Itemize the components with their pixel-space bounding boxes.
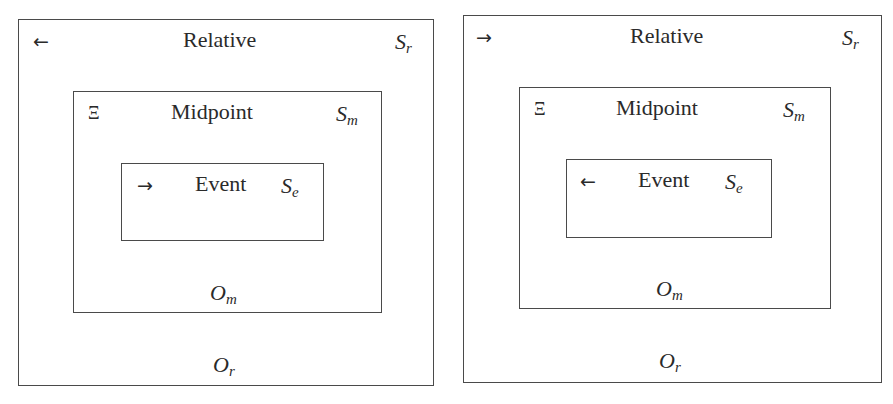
event-s-label: Se: [725, 171, 743, 196]
xi-symbol: Ξ: [88, 104, 100, 122]
xi-symbol: Ξ: [534, 100, 546, 118]
arrow-right-icon: →: [137, 176, 153, 195]
arrow-left-icon: ←: [580, 172, 596, 191]
relative-s-label: Sr: [395, 31, 412, 56]
relative-o-label: Or: [213, 354, 235, 379]
midpoint-o-label: Om: [210, 282, 237, 307]
midpoint-title: Midpoint: [171, 101, 253, 123]
event-title: Event: [195, 173, 246, 195]
midpoint-s-label: Sm: [783, 99, 805, 124]
midpoint-o-label: Om: [656, 278, 683, 303]
relative-title: Relative: [630, 25, 703, 47]
event-title: Event: [638, 169, 689, 191]
relative-title: Relative: [183, 29, 256, 51]
midpoint-title: Midpoint: [616, 97, 698, 119]
relative-o-label: Or: [659, 350, 681, 375]
relative-s-label: Sr: [842, 27, 859, 52]
arrow-right-icon: →: [476, 28, 492, 47]
midpoint-s-label: Sm: [336, 103, 358, 128]
event-s-label: Se: [281, 175, 299, 200]
arrow-left-icon: ←: [33, 32, 49, 51]
